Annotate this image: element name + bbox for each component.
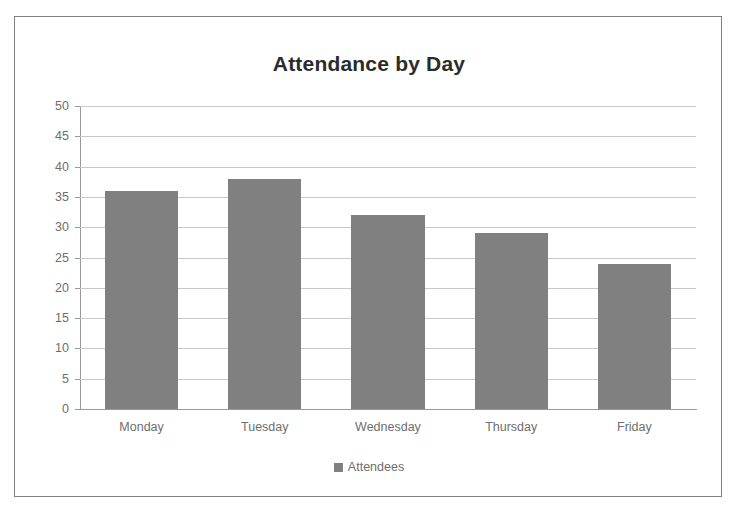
- chart-title: Attendance by Day: [15, 52, 723, 76]
- bar: [351, 215, 424, 409]
- bar: [598, 264, 671, 409]
- chart-legend: Attendees: [15, 461, 723, 474]
- gridline: [80, 167, 696, 168]
- y-axis-tick-label: 35: [21, 191, 69, 204]
- x-axis-tick-label: Thursday: [450, 421, 573, 434]
- gridline: [80, 106, 696, 107]
- legend-color-swatch: [334, 463, 343, 472]
- x-axis-tick-label: Tuesday: [203, 421, 326, 434]
- y-axis-tick-label: 50: [21, 100, 69, 113]
- plot-area: [80, 106, 696, 409]
- y-axis-tick-label: 15: [21, 312, 69, 325]
- bar: [475, 233, 548, 409]
- y-axis-tick-label: 20: [21, 282, 69, 295]
- y-axis-tick: [75, 409, 80, 410]
- legend-entry-label: Attendees: [348, 461, 404, 474]
- y-axis-tick-label: 40: [21, 160, 69, 173]
- y-axis-tick-label: 25: [21, 251, 69, 264]
- gridline: [80, 136, 696, 137]
- bar: [228, 179, 301, 409]
- chart-container: Attendance by Day 50454035302520151050 M…: [14, 16, 722, 497]
- bar: [105, 191, 178, 409]
- y-axis-tick-label: 5: [21, 372, 69, 385]
- y-axis-tick-label: 45: [21, 130, 69, 143]
- y-axis-tick-label: 30: [21, 221, 69, 234]
- x-axis-line: [80, 409, 697, 410]
- x-axis-tick-label: Monday: [80, 421, 203, 434]
- y-axis-tick-label: 10: [21, 342, 69, 355]
- x-axis-tick-label: Friday: [573, 421, 696, 434]
- y-axis-tick-label: 0: [21, 403, 69, 416]
- x-axis-tick-label: Wednesday: [326, 421, 449, 434]
